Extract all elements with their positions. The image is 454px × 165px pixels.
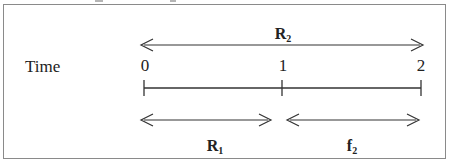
tick-label-0: 0 (141, 57, 150, 74)
tick-label-2: 2 (417, 57, 426, 74)
span-arrow-f2 (287, 114, 419, 126)
span-label-r2: R2 (275, 26, 292, 44)
span-arrow-r1 (141, 114, 271, 126)
time-axis (144, 80, 421, 96)
span-label-r1: R1 (207, 138, 224, 156)
tick-label-1: 1 (279, 57, 288, 74)
axis-label-time: Time (25, 58, 60, 75)
span-label-f2: f2 (347, 138, 357, 156)
timeline-graphic (0, 0, 454, 165)
